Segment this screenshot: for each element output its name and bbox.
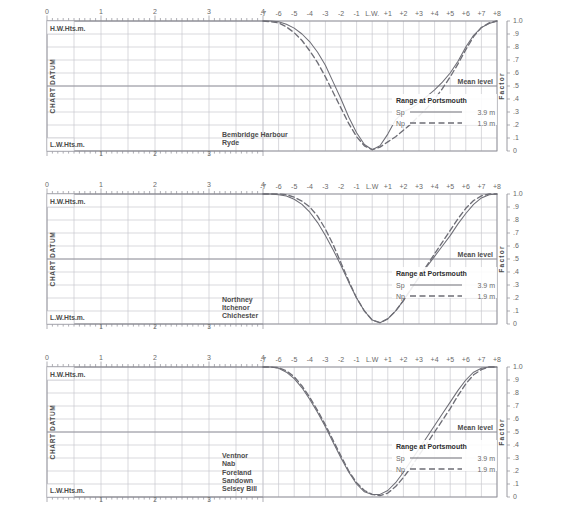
factor-tick: .4	[513, 268, 519, 275]
place-name: Ryde	[222, 139, 239, 147]
factor-tick: .2	[513, 121, 519, 128]
factor-axis-label: Factor	[498, 72, 505, 99]
neaps-curve	[263, 21, 497, 150]
place-name: Foreland	[222, 469, 252, 476]
bottom-height-tick: 3	[207, 496, 211, 503]
factor-tick: .8	[513, 43, 519, 50]
factor-axis: 1.0.9.8.7.6.5.4.3.2.10Factor	[498, 190, 523, 327]
factor-axis-label: Factor	[498, 418, 505, 445]
hour-tick: +6	[462, 183, 470, 190]
mean-level-label: Mean level	[458, 424, 493, 431]
tidal-curve-plot: 01234123-7-6-5-4-3-2-1L.W.+1+2+3+4+5+6+7…	[0, 0, 570, 160]
hour-tick: +6	[462, 10, 470, 17]
tidal-curve-plot: 01234123-7-6-5-4-3-2-1L.W+1+2+3+4+5+6+7+…	[0, 346, 570, 506]
place-names: NorthneyItchenorChichester	[222, 296, 258, 319]
top-height-tick: 2	[153, 354, 157, 361]
tidal-curve-chart-2: 01234123-7-6-5-4-3-2-1L.W+1+2+3+4+5+6+7+…	[0, 173, 570, 333]
hour-tick: L.W.	[365, 10, 379, 17]
factor-tick: .5	[513, 428, 519, 435]
top-height-tick: 2	[153, 181, 157, 188]
factor-tick: .1	[513, 480, 519, 487]
hour-tick: +3	[415, 356, 423, 363]
hour-tick: +2	[399, 10, 407, 17]
chart-datum-label: CHART DATUM	[49, 59, 56, 114]
top-height-tick: 0	[45, 8, 49, 15]
hour-tick: +7	[477, 183, 485, 190]
hour-tick: -4	[307, 10, 313, 17]
place-name: Bembridge Harbour	[222, 131, 288, 139]
top-height-tick: 1	[99, 181, 103, 188]
bottom-height-tick: 3	[207, 323, 211, 330]
hour-tick: +4	[431, 356, 439, 363]
hour-tick: -4	[307, 183, 313, 190]
hour-tick: -5	[291, 10, 297, 17]
mean-level-label: Mean level	[458, 78, 493, 85]
hour-axis: -7-6-5-4-3-2-1L.W+1+2+3+4+5+6+7+8	[260, 356, 501, 363]
hour-tick: -6	[275, 183, 281, 190]
bottom-height-tick: 1	[99, 150, 103, 157]
legend-springs-label: Sp	[396, 282, 405, 290]
hour-tick: +7	[477, 356, 485, 363]
bottom-height-tick: 3	[207, 150, 211, 157]
top-height-tick: 3	[207, 354, 211, 361]
hour-tick: +8	[493, 183, 501, 190]
legend-neaps-value: 1.9 m	[477, 120, 495, 127]
legend-springs-label: Sp	[396, 455, 405, 463]
hour-tick: +5	[446, 356, 454, 363]
factor-tick: .8	[513, 216, 519, 223]
top-height-tick: 3	[207, 8, 211, 15]
hour-tick: -5	[291, 183, 297, 190]
hour-tick: -2	[338, 356, 344, 363]
hw-heights-label: H.W.Hts.m.	[50, 371, 86, 378]
bottom-height-tick: 1	[99, 496, 103, 503]
hour-tick: +2	[399, 356, 407, 363]
legend-neaps-label: Np	[396, 120, 405, 128]
place-name: Northney	[222, 296, 253, 304]
hour-tick: -5	[291, 356, 297, 363]
hour-tick: +1	[384, 183, 392, 190]
hour-tick: +1	[384, 10, 392, 17]
top-height-tick: 3	[207, 181, 211, 188]
hour-tick: -7	[260, 356, 266, 363]
hour-tick: L.W	[366, 356, 379, 363]
factor-tick: .2	[513, 467, 519, 474]
bottom-height-scale: 123	[47, 150, 263, 157]
legend: Range at PortsmouthSp3.9 mNp1.9 m	[392, 440, 497, 474]
place-name: Nab	[222, 460, 235, 467]
hour-tick: -6	[275, 356, 281, 363]
factor-tick: .3	[513, 454, 519, 461]
tidal-curve-chart-1: 01234123-7-6-5-4-3-2-1L.W.+1+2+3+4+5+6+7…	[0, 0, 570, 160]
legend-springs-label: Sp	[396, 109, 405, 117]
bottom-height-scale: 123	[47, 496, 263, 503]
factor-tick: 0	[513, 320, 517, 327]
hour-tick: +7	[477, 10, 485, 17]
legend-title: Range at Portsmouth	[396, 270, 467, 278]
tidal-curve-chart-3: 01234123-7-6-5-4-3-2-1L.W+1+2+3+4+5+6+7+…	[0, 346, 570, 506]
hour-tick: -3	[322, 356, 328, 363]
factor-tick: .1	[513, 134, 519, 141]
hour-tick: -6	[275, 10, 281, 17]
place-name: Sandown	[222, 477, 253, 484]
chart-datum-label: CHART DATUM	[49, 232, 56, 287]
tidal-curve-plot: 01234123-7-6-5-4-3-2-1L.W+1+2+3+4+5+6+7+…	[0, 173, 570, 333]
factor-tick: .4	[513, 95, 519, 102]
tide-curves	[263, 194, 497, 323]
hour-tick: -3	[322, 10, 328, 17]
legend-springs-value: 3.9 m	[477, 282, 495, 289]
hour-tick: -1	[353, 183, 359, 190]
bottom-height-scale: 123	[47, 323, 263, 330]
hour-tick: +1	[384, 356, 392, 363]
factor-tick: .6	[513, 415, 519, 422]
lw-heights-label: L.W.Hts.m.	[50, 314, 85, 321]
place-name: Selsey Bill	[222, 485, 257, 493]
factor-tick: .7	[513, 56, 519, 63]
hour-axis: -7-6-5-4-3-2-1L.W.+1+2+3+4+5+6+7+8	[260, 10, 501, 17]
tidal-curves-sheet: 01234123-7-6-5-4-3-2-1L.W.+1+2+3+4+5+6+7…	[0, 0, 570, 525]
hour-tick: -3	[322, 183, 328, 190]
factor-tick: .6	[513, 69, 519, 76]
factor-tick: 0	[513, 147, 517, 154]
factor-tick: .9	[513, 203, 519, 210]
factor-tick: .5	[513, 82, 519, 89]
legend: Range at PortsmouthSp3.9 mNp1.9 m	[392, 267, 497, 301]
place-name: Ventnor	[222, 452, 248, 459]
